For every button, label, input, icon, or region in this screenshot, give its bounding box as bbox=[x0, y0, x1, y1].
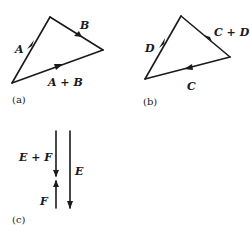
panel-b: D C + D C (b) bbox=[143, 16, 250, 107]
panel-c: E + F F E (c) bbox=[12, 131, 84, 225]
caption-b: (b) bbox=[143, 96, 157, 107]
label-c: C bbox=[187, 80, 196, 93]
label-e: E bbox=[74, 165, 84, 178]
arrowhead-c bbox=[184, 64, 193, 70]
label-f: F bbox=[39, 195, 49, 208]
label-e-plus-f: E + F bbox=[18, 151, 53, 164]
arrowhead-a-plus-b bbox=[54, 64, 63, 70]
label-a: A bbox=[14, 43, 24, 56]
label-c-plus-d: C + D bbox=[214, 26, 250, 39]
caption-c: (c) bbox=[12, 214, 26, 225]
label-d: D bbox=[144, 42, 155, 55]
arrowhead-f bbox=[53, 180, 59, 187]
arrowhead-e bbox=[67, 201, 73, 209]
panel-a: A B A + B (a) bbox=[12, 17, 103, 105]
caption-a: (a) bbox=[12, 94, 26, 105]
label-a-plus-b: A + B bbox=[47, 76, 83, 89]
vector-addition-diagram: A B A + B (a) D C + D C (b) E + F F E (c… bbox=[0, 0, 250, 225]
label-b: B bbox=[79, 19, 89, 32]
arrowhead-e-plus-f bbox=[53, 170, 59, 177]
